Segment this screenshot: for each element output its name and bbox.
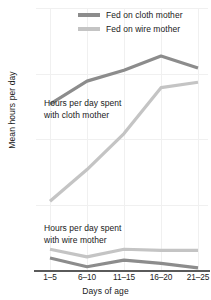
- series-line-2: [50, 249, 198, 257]
- x-tick-4: 21–25: [176, 272, 211, 282]
- legend-swatch-cloth-icon: [78, 13, 100, 16]
- annotation-cloth-mother: Hours per day spent with cloth mother: [44, 98, 122, 121]
- legend: Fed on cloth mother Fed on wire mother: [78, 8, 210, 36]
- chart-figure: Mean hours per day Days of age 24 18 12 …: [0, 0, 211, 300]
- annotation-cloth-line1: Hours per day spent: [44, 98, 122, 110]
- legend-label-cloth: Fed on cloth mother: [106, 10, 183, 20]
- x-tick-labels: 1–56–1011–1516–2021–25: [36, 272, 208, 286]
- annotation-wire-line1: Hours per day spent: [44, 223, 122, 235]
- y-axis-title: Mean hours per day: [7, 50, 17, 170]
- annotation-cloth-line2: with cloth mother: [44, 110, 122, 122]
- legend-item-wire: Fed on wire mother: [78, 22, 210, 36]
- legend-label-wire: Fed on wire mother: [106, 24, 180, 34]
- annotation-wire-line2: with wire mother: [44, 235, 122, 247]
- series-line-3: [50, 258, 198, 268]
- annotation-wire-mother: Hours per day spent with wire mother: [44, 223, 122, 246]
- legend-item-cloth: Fed on cloth mother: [78, 8, 210, 22]
- x-axis-title: Days of age: [0, 286, 211, 296]
- series-line-0: [50, 56, 198, 104]
- legend-swatch-wire-icon: [78, 27, 100, 30]
